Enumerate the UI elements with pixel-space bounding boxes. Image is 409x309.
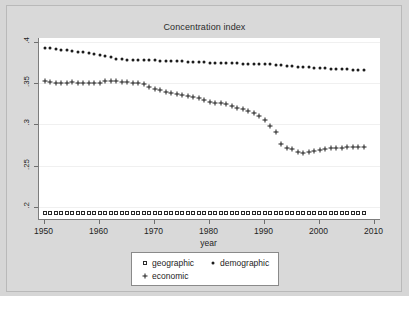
data-point-geographic	[285, 211, 289, 215]
data-point-geographic	[318, 211, 322, 215]
data-point-geographic	[323, 211, 327, 215]
data-point-economic	[290, 147, 295, 152]
data-point-geographic	[329, 211, 333, 215]
data-point-economic	[284, 145, 289, 150]
data-point-demographic	[340, 68, 343, 71]
data-point-demographic	[115, 57, 118, 60]
data-point-demographic	[335, 67, 338, 70]
data-point-demographic	[82, 51, 85, 54]
chart-title: Concentration index	[0, 22, 409, 32]
data-point-geographic	[290, 211, 294, 215]
data-point-economic	[185, 94, 190, 99]
data-point-geographic	[307, 211, 311, 215]
dot-marker-icon	[208, 259, 217, 268]
legend-item-geographic: geographic	[140, 258, 194, 268]
data-point-demographic	[126, 58, 129, 61]
x-tick-label: 1950	[34, 226, 53, 236]
data-point-demographic	[258, 62, 261, 65]
data-point-demographic	[153, 59, 156, 62]
data-point-economic	[328, 146, 333, 151]
data-point-economic	[130, 80, 135, 85]
data-point-demographic	[186, 60, 189, 63]
data-point-geographic	[180, 211, 184, 215]
data-point-demographic	[302, 65, 305, 68]
y-tick-label: .35	[22, 72, 31, 92]
plot-canvas	[39, 38, 380, 219]
data-point-economic	[86, 81, 91, 86]
data-point-geographic	[257, 211, 261, 215]
y-tick-mark	[34, 124, 38, 125]
plot-area	[38, 38, 380, 220]
data-point-economic	[70, 80, 75, 85]
data-point-geographic	[92, 211, 96, 215]
data-point-economic	[301, 151, 306, 156]
gridline-y-.2	[39, 207, 380, 208]
y-tick-label: .2	[22, 195, 31, 215]
x-tick-mark	[264, 220, 265, 224]
data-point-demographic	[181, 60, 184, 63]
data-point-geographic	[59, 211, 63, 215]
data-point-economic	[257, 114, 262, 119]
data-point-demographic	[49, 47, 52, 50]
data-point-geographic	[153, 211, 157, 215]
data-point-economic	[108, 78, 113, 83]
data-point-economic	[295, 149, 300, 154]
data-point-geographic	[334, 211, 338, 215]
data-point-demographic	[247, 62, 250, 65]
data-point-geographic	[230, 211, 234, 215]
x-tick-label: 2000	[309, 226, 328, 236]
data-point-demographic	[98, 53, 101, 56]
data-point-demographic	[241, 62, 244, 65]
data-point-economic	[92, 81, 97, 86]
data-point-economic	[345, 145, 350, 150]
gridline-y-.25	[39, 166, 380, 167]
data-point-demographic	[87, 52, 90, 55]
data-point-demographic	[159, 59, 162, 62]
data-point-geographic	[356, 211, 360, 215]
data-point-demographic	[214, 61, 217, 64]
data-point-economic	[196, 96, 201, 101]
data-point-geographic	[263, 211, 267, 215]
data-point-economic	[114, 79, 119, 84]
data-point-economic	[147, 85, 152, 90]
x-tick-label: 1960	[89, 226, 108, 236]
data-point-demographic	[329, 67, 332, 70]
data-point-demographic	[324, 67, 327, 70]
data-point-geographic	[142, 211, 146, 215]
data-point-demographic	[230, 62, 233, 65]
x-tick-mark	[154, 220, 155, 224]
data-point-geographic	[241, 211, 245, 215]
data-point-economic	[48, 80, 53, 85]
y-tick-mark	[34, 42, 38, 43]
plus-marker-icon	[140, 272, 149, 281]
data-point-demographic	[197, 61, 200, 64]
data-point-geographic	[65, 211, 69, 215]
data-point-economic	[356, 145, 361, 150]
data-point-economic	[361, 144, 366, 149]
data-point-economic	[312, 149, 317, 154]
x-axis-title: year	[38, 238, 379, 248]
data-point-demographic	[285, 64, 288, 67]
square-marker-icon	[140, 259, 149, 268]
data-point-geographic	[191, 211, 195, 215]
data-point-demographic	[357, 69, 360, 72]
x-tick-mark	[319, 220, 320, 224]
data-point-demographic	[291, 65, 294, 68]
data-point-demographic	[263, 63, 266, 66]
data-point-geographic	[213, 211, 217, 215]
data-point-geographic	[131, 211, 135, 215]
x-tick-label: 1980	[199, 226, 218, 236]
data-point-economic	[152, 87, 157, 92]
data-point-economic	[334, 145, 339, 150]
data-point-demographic	[219, 61, 222, 64]
data-point-economic	[279, 142, 284, 147]
data-point-economic	[339, 145, 344, 150]
data-point-geographic	[54, 211, 58, 215]
data-point-economic	[81, 80, 86, 85]
x-tick-label: 1990	[254, 226, 273, 236]
data-point-economic	[240, 107, 245, 112]
data-point-demographic	[203, 61, 206, 64]
data-point-geographic	[76, 211, 80, 215]
data-point-geographic	[202, 211, 206, 215]
chart-legend: geographicdemographic economic	[131, 252, 279, 286]
